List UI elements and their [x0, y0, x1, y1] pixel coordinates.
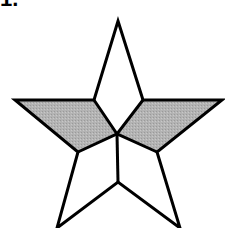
star-figure: [0, 0, 225, 228]
shaded-left-arm: [15, 100, 117, 152]
inner-line-vertical: [117, 134, 118, 182]
star-outline: [15, 21, 222, 228]
shaded-right-arm: [117, 100, 222, 152]
